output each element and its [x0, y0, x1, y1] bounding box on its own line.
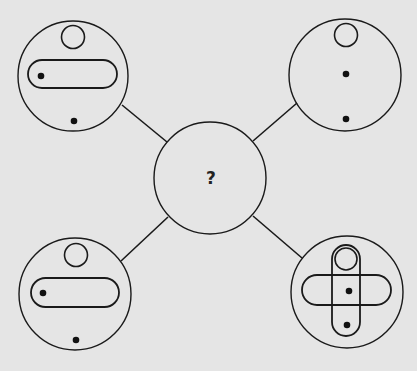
dot-icon	[71, 118, 78, 125]
center-panel: ?	[154, 122, 266, 234]
connector-top-left	[122, 105, 167, 142]
puzzle-diagram: ?	[0, 0, 417, 371]
question-mark: ?	[206, 168, 216, 188]
dot-icon	[40, 290, 47, 297]
panel-bottom-right	[291, 236, 403, 348]
panel-top-left	[18, 21, 128, 131]
dot-icon	[343, 116, 350, 123]
connector-top-right	[253, 103, 297, 141]
connector-bottom-right	[253, 216, 302, 258]
dot-icon	[73, 337, 80, 344]
small-circle-icon	[335, 24, 358, 47]
dot-icon	[346, 288, 353, 295]
panel-bottom-left	[19, 238, 131, 350]
small-circle-icon	[62, 26, 85, 49]
dot-icon	[343, 71, 350, 78]
dot-icon	[344, 322, 351, 329]
dot-icon	[38, 73, 45, 80]
connector-bottom-left	[121, 217, 168, 261]
small-circle-icon	[335, 248, 357, 270]
panel-top-right	[289, 19, 401, 131]
small-circle-icon	[65, 244, 88, 267]
